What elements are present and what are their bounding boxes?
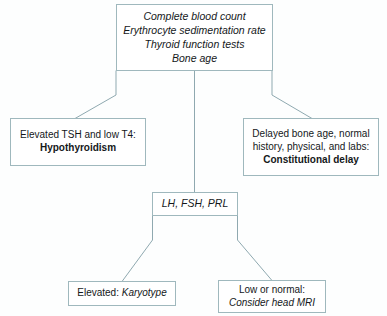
- node-line: Delayed bone age, normal: [252, 128, 369, 141]
- node-constitutional-delay-outcome: Delayed bone age, normal history, physic…: [243, 118, 379, 176]
- node-line: Low or normal:: [239, 284, 305, 297]
- node-line-prefix: Elevated:: [77, 287, 121, 298]
- node-line-emphasis: Constitutional delay: [263, 154, 359, 167]
- node-initial-laboratory-tests: Complete blood count Erythrocyte sedimen…: [116, 4, 273, 71]
- node-line: LH, FSH, PRL: [162, 197, 229, 210]
- connector-hormones-to-karyotype: [122, 216, 153, 282]
- node-line: Elevated: Karyotype: [77, 287, 167, 300]
- connector-labs-to-constitutional: [272, 71, 312, 119]
- node-line-emphasis: Hypothyroidism: [40, 142, 116, 155]
- connector-hormones-to-mri: [238, 216, 273, 281]
- node-head-mri-outcome: Low or normal: Consider head MRI: [218, 280, 326, 313]
- node-gonadotropin-panel: LH, FSH, PRL: [152, 192, 238, 216]
- node-karyotype-outcome: Elevated: Karyotype: [68, 281, 176, 306]
- node-line: Thyroid function tests: [145, 38, 245, 51]
- node-line: Erythrocyte sedimentation rate: [123, 24, 265, 37]
- node-line: Elevated TSH and low T4:: [20, 129, 136, 142]
- node-line-emphasis: Karyotype: [122, 287, 167, 298]
- node-hypothyroidism-outcome: Elevated TSH and low T4: Hypothyroidism: [10, 118, 146, 166]
- node-line: Bone age: [172, 52, 217, 65]
- node-line: Complete blood count: [143, 10, 245, 23]
- node-line: history, physical, and labs:: [253, 141, 370, 154]
- node-line-emphasis: Consider head MRI: [229, 297, 315, 310]
- delayed-puberty-flowchart: Complete blood count Erythrocyte sedimen…: [0, 0, 387, 316]
- connector-labs-to-hypothyroidism: [75, 71, 116, 119]
